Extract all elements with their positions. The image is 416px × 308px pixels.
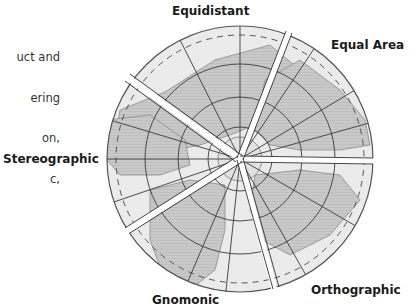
label-stereographic: Stereographic (3, 152, 99, 166)
label-orthographic: Orthographic (311, 283, 401, 297)
label-equidistant: Equidistant (172, 4, 249, 18)
label-equal-area: Equal Area (331, 38, 404, 52)
label-gnomonic: Gnomonic (152, 293, 219, 307)
